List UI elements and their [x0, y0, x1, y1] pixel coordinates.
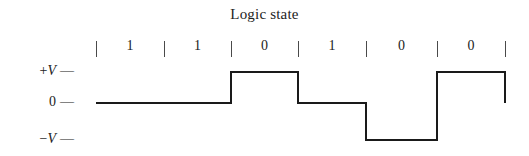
- waveform-plot: [0, 0, 529, 156]
- waveform-line: [96, 72, 505, 140]
- logic-state-waveform-figure: Logic state +V— 0— −V— 110100: [0, 0, 529, 156]
